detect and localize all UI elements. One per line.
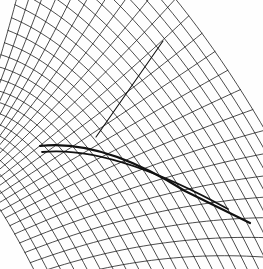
ruled-surface-wireframe bbox=[0, 0, 263, 269]
figure-container: Ruled surface wireframe Black wireframe … bbox=[0, 0, 263, 269]
